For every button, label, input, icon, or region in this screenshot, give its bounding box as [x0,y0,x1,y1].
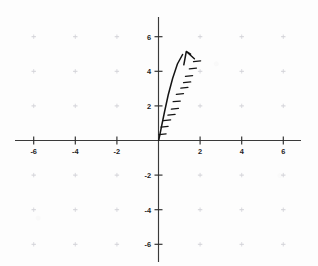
vector-hatch-mark [181,87,188,88]
y-axis-tick-label: 4 [147,67,152,76]
x-axis-tick-label: -6 [30,147,37,156]
vector-hatch-mark [176,94,183,95]
vector-hatch-mark [164,120,171,121]
vector-hatch-mark [184,82,191,83]
y-axis-tick-label: -6 [144,240,151,249]
coordinate-plane-figure: -6-4-2246-6-4-2246 [0,0,318,266]
vector-arrowhead [184,52,195,65]
vector-hatch-marks [159,61,201,135]
x-axis-tick-label: 2 [198,147,202,156]
y-axis-tick-label: 2 [147,102,151,111]
x-axis-tick-label: 4 [240,147,245,156]
vector-hatch-mark [171,108,178,109]
vector-hatch-mark [193,61,200,62]
vector-hatch-mark [168,114,175,115]
vector-hatch-mark [189,68,196,69]
x-axis-tick-label: -4 [72,147,79,156]
vector-arrow [159,52,201,141]
y-axis-tick-label: -4 [144,206,151,215]
vector-hatch-mark [159,134,166,135]
x-axis-tick-label: 6 [281,147,285,156]
vector-hatch-mark [173,101,180,102]
y-axis-tick-label: 6 [147,33,151,42]
plot-canvas: -6-4-2246-6-4-2246 [0,0,318,266]
axes-layer [15,17,301,262]
vector-hatch-mark [161,126,168,127]
y-axis-tick-label: -2 [144,171,151,180]
vector-hatch-mark [185,76,192,77]
x-axis-tick-label: -2 [114,147,121,156]
